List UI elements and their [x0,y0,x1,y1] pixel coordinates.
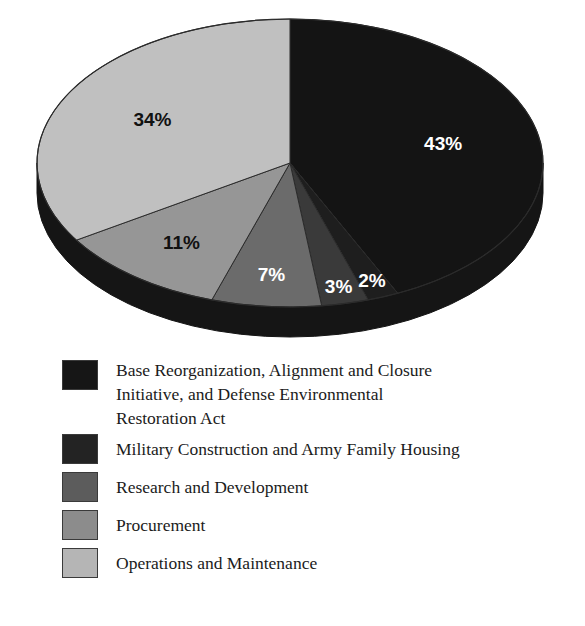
legend-item: Procurement [62,510,577,540]
legend-item: Operations and Maintenance [62,548,577,578]
legend-label-base-reorganization: Base Reorganization, Alignment and Closu… [116,358,432,430]
legend-item: Base Reorganization, Alignment and Closu… [62,358,577,430]
pie-slice-label: 7% [258,264,286,285]
pie-chart: 43%2%3%7%11%34% [0,0,585,340]
legend-swatch-base-reorganization [62,360,98,390]
legend-label-military-construction: Military Construction and Army Family Ho… [116,434,460,464]
pie-slice-label: 43% [424,133,462,154]
legend-label-procurement: Procurement [116,510,205,540]
legend-item: Research and Development [62,472,577,502]
pie-slice-label: 11% [163,232,200,253]
pie-slices [37,19,543,307]
legend-label-research-development: Research and Development [116,472,308,502]
legend-item: Military Construction and Army Family Ho… [62,434,577,464]
legend-label-operations-maintenance: Operations and Maintenance [116,548,317,578]
chart-legend: Base Reorganization, Alignment and Closu… [62,358,577,578]
legend-swatch-research-development [62,472,98,502]
pie-slice-label: 3% [325,276,353,297]
pie-slice-label: 2% [358,270,386,291]
legend-swatch-military-construction [62,434,98,464]
pie-chart-svg: 43%2%3%7%11%34% [0,0,585,340]
pie-slice-label: 34% [133,109,171,130]
legend-swatch-operations-maintenance [62,548,98,578]
legend-swatch-procurement [62,510,98,540]
